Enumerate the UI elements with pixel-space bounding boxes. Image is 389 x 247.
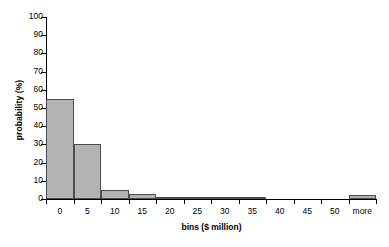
histogram-bar [211, 197, 239, 199]
y-tick-label: 0 [38, 193, 43, 203]
x-tick-mark [101, 199, 102, 204]
y-tick-label: 60 [34, 84, 43, 94]
x-tick-label: 5 [85, 206, 90, 216]
x-tick-mark [211, 199, 212, 204]
x-tick-mark [349, 199, 350, 204]
x-tick-label: 45 [303, 206, 312, 216]
histogram-bar [74, 144, 102, 199]
x-tick-label: 40 [275, 206, 284, 216]
x-tick-label: 15 [138, 206, 147, 216]
x-tick-label: 20 [165, 206, 174, 216]
x-tick-label: 35 [248, 206, 257, 216]
x-tick-label: more [353, 206, 372, 216]
x-tick-mark [294, 199, 295, 204]
x-tick-mark [376, 199, 377, 204]
x-tick-mark [184, 199, 185, 204]
x-tick-label: 50 [330, 206, 339, 216]
x-tick-mark [46, 199, 47, 204]
y-axis-title: probability (%) [14, 50, 24, 170]
histogram-bar [129, 194, 157, 199]
y-tick-label: 20 [34, 157, 43, 167]
histogram-bar [184, 197, 212, 199]
x-tick-mark [321, 199, 322, 204]
x-tick-mark [74, 199, 75, 204]
x-axis-title: bins ($ million) [46, 222, 377, 232]
x-tick-mark [239, 199, 240, 204]
histogram-bar [156, 197, 184, 199]
x-tick-mark [129, 199, 130, 204]
x-tick-label: 10 [110, 206, 119, 216]
y-tick-label: 50 [34, 102, 43, 112]
x-tick-mark [266, 199, 267, 204]
histogram-chart: probability (%) 010203040506070809010005… [0, 0, 389, 247]
y-tick-label: 70 [34, 66, 43, 76]
plot-area: 0102030405060708090100051015202530354045… [46, 17, 376, 199]
y-tick-label: 90 [34, 29, 43, 39]
x-tick-label: 30 [220, 206, 229, 216]
x-tick-mark [156, 199, 157, 204]
x-tick-label: 0 [57, 206, 62, 216]
y-tick-label: 30 [34, 138, 43, 148]
y-tick-label: 80 [34, 47, 43, 57]
y-tick-label: 100 [29, 11, 43, 21]
x-tick-label: 25 [193, 206, 202, 216]
y-tick-label: 40 [34, 120, 43, 130]
histogram-bar [46, 99, 74, 199]
histogram-bar [349, 195, 377, 199]
histogram-bar [101, 190, 129, 199]
y-tick-label: 10 [34, 175, 43, 185]
histogram-bar [239, 197, 267, 199]
